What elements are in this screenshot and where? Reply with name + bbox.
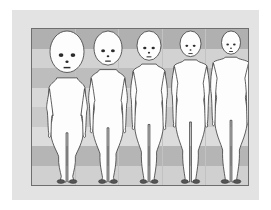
right-eye-icon [152,47,155,50]
left-foot [99,180,106,184]
feet [140,180,158,184]
right-foot [151,180,158,184]
head-path [50,31,84,72]
left-eye-icon [226,43,229,45]
nose-icon [148,52,150,54]
feet [221,180,241,184]
nose-icon [230,47,232,48]
mouth-icon [229,51,233,52]
left-eye-icon [185,45,188,47]
head-path [137,31,161,60]
torso-and-legs-path [174,60,207,182]
head-path [94,31,122,65]
torso-and-legs-path [49,78,85,182]
mouth-icon [147,56,152,57]
head-path [180,31,201,57]
nose-icon [107,55,110,57]
mouth-icon [105,61,111,62]
left-eye-icon [101,49,105,52]
left-eye-icon [143,47,146,50]
left-eye-icon [59,53,64,57]
head-path [222,31,241,54]
right-eye-icon [193,45,196,47]
torso-and-legs-path [91,70,125,182]
right-foot [233,180,241,184]
left-foot [221,180,229,184]
left-foot [181,180,188,184]
right-eye-icon [233,43,236,45]
feet [57,180,77,184]
left-foot [140,180,147,184]
right-foot [69,180,77,184]
right-eye-icon [111,49,115,52]
mouth-icon [64,67,71,68]
human-figure-adult [204,29,249,185]
left-foot [57,180,65,184]
torso-and-legs-path [133,64,165,182]
nose-icon [190,49,192,51]
proportion-plate [31,28,249,186]
mouth-icon [188,53,192,54]
human-figure-svg [204,29,249,185]
right-foot [193,180,200,184]
right-eye-icon [71,53,76,57]
illustration-panel [12,10,259,200]
feet [181,180,199,184]
feet [99,180,118,184]
right-foot [110,180,117,184]
torso-and-legs-path [213,57,249,182]
nose-icon [65,60,68,63]
